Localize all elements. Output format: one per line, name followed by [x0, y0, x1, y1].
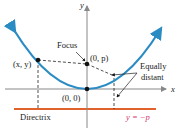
vertex-point [85, 87, 90, 92]
parabola-diagram: y x Focus (0, p) (x, y) (0, 0) Equally d… [0, 0, 185, 139]
x-axis-label: x [170, 84, 175, 94]
vertex-label: (0, 0) [62, 93, 81, 103]
focus-point [85, 62, 90, 67]
point-xy-label: (x, y) [13, 59, 32, 69]
focus-label: Focus [57, 40, 77, 50]
focus-point-label: (0, p) [90, 53, 109, 63]
point-to-focus-dashed [38, 60, 87, 64]
y-axis-label: y [79, 0, 84, 10]
distant-label: distant [141, 72, 164, 82]
focus-pointer [76, 52, 85, 61]
directrix-equation: y = −p [125, 112, 150, 122]
equally-label: Equally [140, 61, 167, 71]
directrix-label: Directrix [20, 112, 51, 122]
focus-to-curve-dashed [87, 64, 112, 75]
point-xy [36, 58, 41, 63]
